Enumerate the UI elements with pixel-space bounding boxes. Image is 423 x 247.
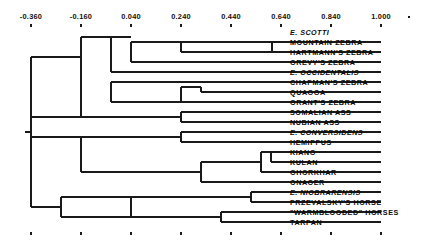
axis-tick-label: -0.160 <box>70 12 92 21</box>
taxon-label-kulan: KULAN <box>290 158 318 167</box>
taxon-label-hartmann-s-zebra: HARTMANN'S ZEBRA <box>290 48 374 57</box>
taxon-label-przevalsky-s-horse: PRZEVALSKY'S HORSE <box>290 198 382 207</box>
axis-tick-label: 0.840 <box>321 12 341 21</box>
axis-tick-label: 1.000 <box>371 12 391 21</box>
taxon-label-kiang: KIANG <box>290 148 316 157</box>
axis-tick-label: 0.040 <box>121 12 141 21</box>
tree-canvas: -0.360-0.1600.0400.2400.4400.6400.8401.0… <box>0 0 423 247</box>
axis-tick-label: 0.240 <box>171 12 191 21</box>
taxon-label-e-niobrarensis: E. NIOBRARENSIS <box>290 188 361 197</box>
axis-tick-label: -0.360 <box>20 12 42 21</box>
taxon-label-nubian-ass: NUBIAN ASS <box>290 118 340 127</box>
taxon-label-ghorkhar: GHORKHAR <box>290 168 337 177</box>
taxon-label-tarpan: TARPAN <box>290 218 322 227</box>
taxon-label-e-conversidens: E. CONVERSIDENS <box>290 128 363 137</box>
taxon-label-onager: ONAGER <box>290 178 325 187</box>
taxon-label-chapman-s-zebra: CHAPMAN'S ZEBRA <box>290 78 368 87</box>
axis-tick-label: 0.640 <box>271 12 291 21</box>
taxon-label-somalian-ass: SOMALIAN ASS <box>290 108 351 117</box>
taxon-label-grant-s-zebra: GRANT'S ZEBRA <box>290 98 356 107</box>
taxon-label-e-scotti: E. SCOTTI <box>290 28 330 37</box>
taxon-label-quagga: QUAGGA <box>290 88 326 97</box>
taxon-label-e-occidentalis: E. OCCIDENTALIS <box>290 68 359 77</box>
phylogenetic-tree-figure: -0.360-0.1600.0400.2400.4400.6400.8401.0… <box>0 0 423 247</box>
taxon-label-mountain-zebra: MOUNTAIN ZEBRA <box>290 38 363 47</box>
taxon-label-hemippus: HEMIPPUS <box>290 138 332 147</box>
taxon-label-warmblooded-horses: "WARMBLOODED" HORSES <box>290 208 399 217</box>
taxon-label-grevy-s-zebra: GREVY'S ZEBRA <box>290 58 356 67</box>
axis-tick-label: 0.440 <box>221 12 241 21</box>
